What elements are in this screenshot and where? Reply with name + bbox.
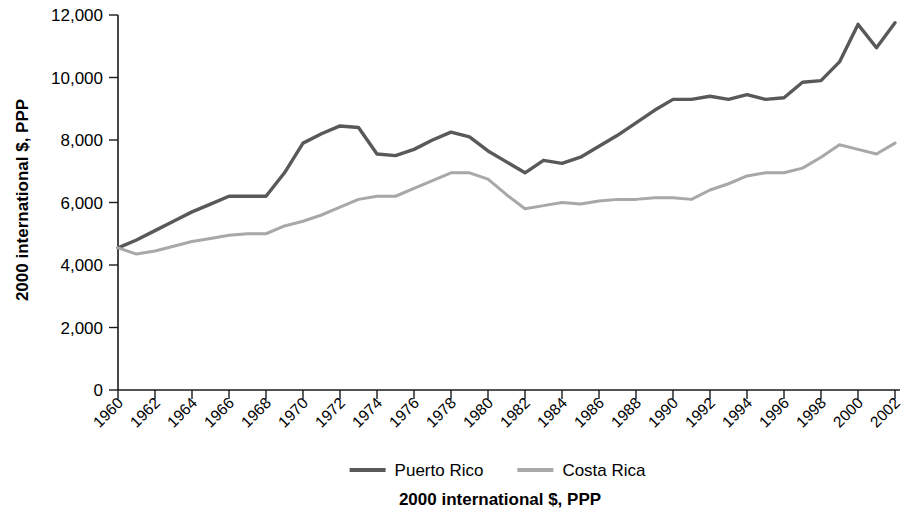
legend-label: Costa Rica — [562, 461, 646, 480]
y-tick-label: 10,000 — [51, 69, 103, 88]
y-axis-title: 2000 international $, PPP — [13, 99, 32, 301]
y-tick-label: 4,000 — [60, 256, 103, 275]
y-tick-label: 0 — [94, 381, 103, 400]
legend-label: Puerto Rico — [395, 461, 484, 480]
y-tick-label: 8,000 — [60, 131, 103, 150]
y-tick-label: 6,000 — [60, 194, 103, 213]
chart-background — [0, 0, 916, 520]
x-axis-title: 2000 international $, PPP — [399, 490, 601, 509]
line-chart: 2000 international $, PPP 02,0004,0006,0… — [0, 0, 916, 520]
y-tick-label: 2,000 — [60, 319, 103, 338]
y-tick-label: 12,000 — [51, 6, 103, 25]
